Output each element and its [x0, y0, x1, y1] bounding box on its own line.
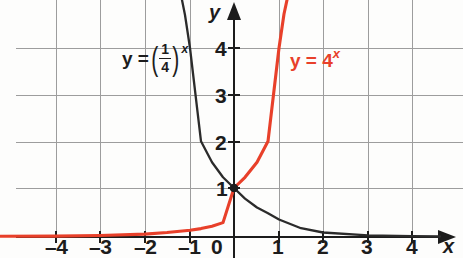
y-tick-label-4: 4 — [215, 38, 226, 59]
x-tick-label-minus4: –4 — [45, 236, 67, 257]
y-axis — [227, 2, 241, 258]
x-tick-label-0: 0 — [211, 236, 222, 257]
close-paren: ) — [172, 45, 179, 72]
x-tick-label-minus3: –3 — [89, 236, 111, 257]
black-label-fraction-group: ( 1 4 ) — [149, 42, 181, 75]
curve-label-4x: y = 4 x — [290, 50, 340, 70]
red-label-lhs: y = 4 — [290, 51, 333, 70]
x-tick-label-minus1: –1 — [178, 236, 200, 257]
y-tick-label-1: 1 — [216, 178, 227, 199]
intersection-point-marker — [230, 184, 239, 193]
x-tick-label-4: 4 — [406, 236, 417, 257]
black-label-lhs: y = — [122, 49, 149, 68]
x-axis-label: x — [443, 236, 454, 256]
x-tick-label-2: 2 — [317, 236, 328, 257]
black-label-exponent: x — [181, 43, 188, 55]
y-axis-label: y — [209, 2, 220, 22]
fraction-one-quarter: 1 4 — [159, 42, 171, 75]
y-tick-label-2: 2 — [215, 132, 226, 153]
x-tick-label-3: 3 — [361, 236, 372, 257]
curve-label-quarter-x: y = ( 1 4 ) x — [122, 42, 188, 75]
curve-exp-4x — [0, 0, 287, 236]
curve-exp-quarter-x — [182, 0, 440, 237]
open-paren: ( — [151, 45, 158, 72]
y-axis-arrow — [227, 2, 241, 20]
y-tick-label-3: 3 — [215, 85, 226, 106]
red-label-exponent: x — [333, 47, 340, 60]
x-tick-label-minus2: –2 — [134, 236, 156, 257]
graph-figure: –4 –3 –2 –1 0 1 2 3 4 1 2 3 4 y x y = ( … — [0, 0, 463, 258]
coordinate-plane — [0, 0, 463, 258]
fraction-numerator: 1 — [159, 42, 171, 57]
x-tick-label-1: 1 — [272, 236, 283, 257]
grid-horizontal — [16, 48, 463, 188]
fraction-denominator: 4 — [159, 60, 171, 75]
